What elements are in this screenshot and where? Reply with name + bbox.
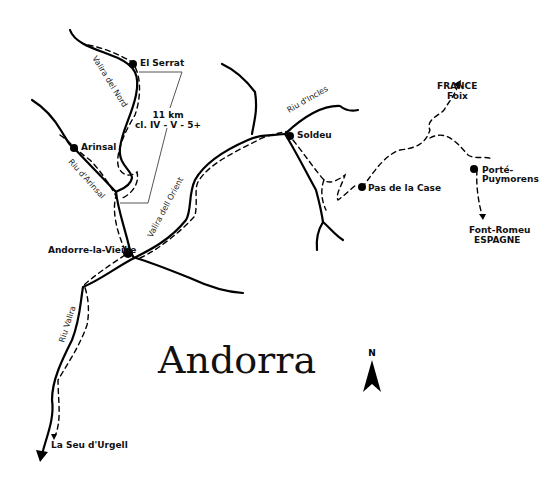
map-title: Andorra — [157, 338, 316, 382]
route-orient — [140, 130, 290, 258]
town-pas-de-la-case — [358, 183, 366, 191]
callout-upper — [139, 72, 182, 108]
label-font-romeu: Font-Romeu — [469, 225, 530, 235]
river-valira-orient — [134, 134, 285, 258]
river-label-orient: Valira dell Orient — [146, 176, 185, 239]
label-france: FRANCE — [437, 81, 477, 91]
label-arinsal: Arinsal — [81, 142, 116, 152]
route-soldeu-pas — [293, 140, 356, 200]
route-class: cl. IV - V - 5+ — [135, 120, 201, 130]
route-pas-case — [322, 180, 326, 210]
arrow-la-seu — [36, 450, 48, 462]
town-el-serrat — [129, 60, 137, 68]
river-label-valira-del-nord: Valira del Nord — [90, 54, 129, 109]
river-riu-valira — [42, 258, 134, 455]
town-porte — [470, 165, 478, 173]
label-porte-2: Puymorens — [482, 174, 539, 184]
route-riu-valira — [55, 255, 125, 436]
river-label-arinsal: Riu d'Arinsal — [67, 157, 107, 200]
label-el-serrat: El Serrat — [140, 58, 185, 68]
north-arrow-icon — [363, 360, 381, 392]
river-soldeu-fork — [323, 222, 343, 240]
river-tributary-north — [222, 64, 256, 134]
town-arinsal — [70, 144, 78, 152]
label-andorre: Andorre-la-Vieille — [48, 245, 136, 255]
label-espagne: ESPAGNE — [474, 235, 520, 245]
river-soldeu-south — [285, 134, 323, 250]
label-soldeu: Soldeu — [297, 130, 332, 140]
callout-lower — [120, 128, 167, 203]
town-soldeu — [286, 132, 294, 140]
route-distance: 11 km — [152, 110, 183, 120]
label-pas-de-la-case: Pas de la Case — [368, 183, 441, 193]
andorra-map: El Serrat Arinsal Andorre-la-Vieille Sol… — [0, 0, 558, 480]
label-foix: Foix — [447, 91, 468, 101]
river-east-to-pas — [136, 258, 243, 293]
label-la-seu: La Seu d'Urgell — [51, 440, 128, 450]
river-label-incles: Riu d'Incles — [286, 84, 330, 115]
river-label-riu-valira: Riu Valira — [57, 305, 77, 344]
route-france-porte — [430, 135, 492, 160]
north-label: N — [368, 348, 376, 358]
arrow-fontromeu — [479, 214, 486, 220]
route-pas-france — [362, 85, 458, 188]
